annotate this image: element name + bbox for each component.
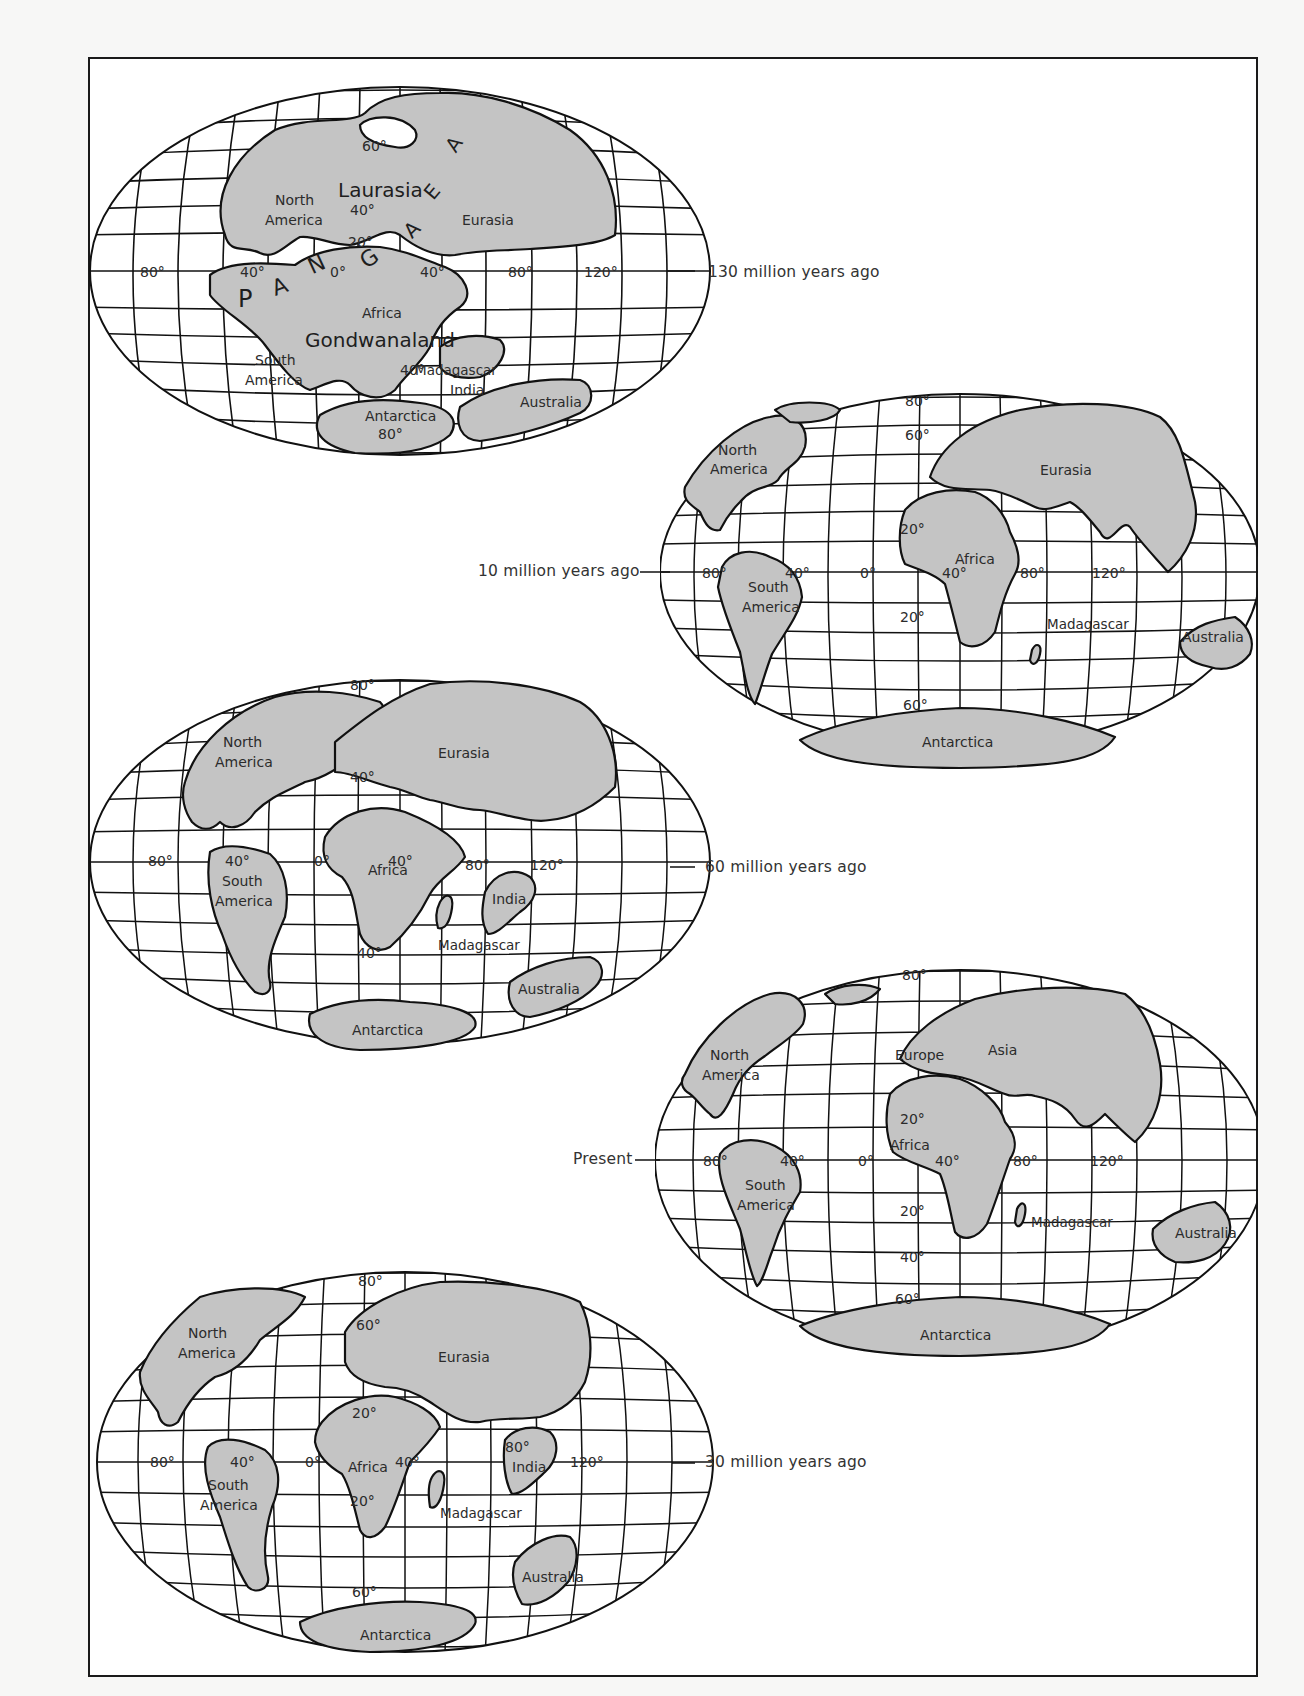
label-leader-lines xyxy=(0,0,1304,1696)
